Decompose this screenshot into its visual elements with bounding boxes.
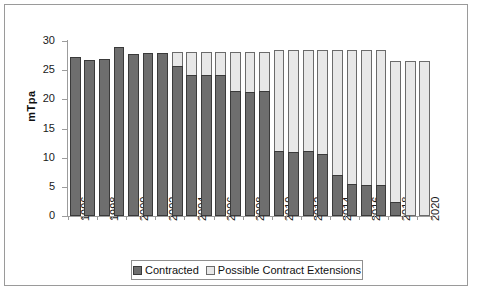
bar-segment-contracted (390, 202, 401, 216)
bar-segment-contracted (157, 53, 168, 216)
legend-item-extensions: Possible Contract Extensions (206, 265, 361, 276)
bar-segment-contracted (143, 53, 154, 216)
y-tick-label: 5 (33, 181, 55, 192)
bar-segment-extensions (245, 52, 256, 92)
x-tick-mark (257, 216, 258, 220)
bar-segment-contracted (70, 57, 81, 216)
bar-segment-extensions (419, 61, 430, 216)
x-tick-mark (272, 216, 273, 220)
bar-2003[interactable] (172, 52, 183, 217)
bar-2011[interactable] (288, 50, 299, 216)
x-tick-mark (417, 216, 418, 220)
x-tick-mark (228, 216, 229, 220)
bar-1999[interactable] (114, 47, 125, 216)
bar-2009[interactable] (259, 52, 270, 216)
bar-segment-extensions (259, 52, 270, 91)
bar-2001[interactable] (143, 53, 154, 216)
bar-segment-extensions (347, 50, 358, 184)
bar-2010[interactable] (274, 50, 285, 216)
bar-segment-contracted (259, 91, 270, 216)
bar-2005[interactable] (201, 52, 212, 216)
bar-segment-contracted (317, 154, 328, 216)
bar-2004[interactable] (186, 52, 197, 216)
legend-item-contracted: Contracted (133, 265, 199, 276)
x-tick-mark (388, 216, 389, 220)
bar-segment-contracted (361, 185, 372, 216)
bar-segment-extensions (274, 50, 285, 152)
bar-segment-contracted (128, 54, 139, 216)
bar-segment-contracted (288, 152, 299, 216)
bar-segment-extensions (186, 52, 197, 75)
x-tick-mark (184, 216, 185, 220)
bar-1997[interactable] (84, 60, 95, 216)
x-tick-mark (301, 216, 302, 220)
bar-segment-extensions (361, 50, 372, 185)
bar-segment-contracted (245, 92, 256, 216)
bar-segment-extensions (376, 50, 387, 185)
bar-segment-extensions (230, 52, 241, 91)
x-tick-mark (345, 216, 346, 220)
x-tick-mark (68, 216, 69, 220)
bar-2012[interactable] (303, 50, 314, 216)
y-tick-label: 25 (33, 64, 55, 75)
bar-2018[interactable] (390, 61, 401, 216)
bar-segment-contracted (303, 151, 314, 216)
bar-segment-extensions (390, 61, 401, 202)
x-tick-mark (83, 216, 84, 220)
bar-2017[interactable] (376, 50, 387, 216)
bar-segment-contracted (215, 75, 226, 216)
bar-segment-contracted (332, 175, 343, 216)
bar-segment-contracted (84, 60, 95, 216)
bar-2002[interactable] (157, 53, 168, 216)
legend-label-extensions: Possible Contract Extensions (218, 265, 361, 276)
x-tick-mark (97, 216, 98, 220)
x-tick-mark (374, 216, 375, 220)
bar-segment-contracted (201, 75, 212, 216)
bar-segment-extensions (172, 52, 183, 66)
bar-2006[interactable] (215, 52, 226, 216)
bar-2014[interactable] (332, 50, 343, 216)
x-tick-mark (170, 216, 171, 220)
bar-segment-contracted (186, 75, 197, 216)
y-tick-mark (62, 216, 67, 217)
x-tick-mark (155, 216, 156, 220)
bar-2020[interactable] (419, 61, 430, 216)
bar-2008[interactable] (245, 52, 256, 216)
x-tick-mark (112, 216, 113, 220)
bar-segment-extensions (201, 52, 212, 75)
y-tick-label: 30 (33, 35, 55, 46)
bar-2000[interactable] (128, 54, 139, 216)
plot-area (68, 41, 432, 216)
bar-segment-contracted (230, 91, 241, 216)
bar-2013[interactable] (317, 50, 328, 216)
y-tick-mark (62, 187, 67, 188)
bar-segment-extensions (303, 50, 314, 152)
y-tick-label: 0 (33, 210, 55, 221)
bar-1998[interactable] (99, 59, 110, 217)
x-tick-mark (126, 216, 127, 220)
bar-2007[interactable] (230, 52, 241, 216)
bar-2016[interactable] (361, 50, 372, 216)
x-tick-mark (199, 216, 200, 220)
bar-2015[interactable] (347, 50, 358, 216)
bar-segment-contracted (172, 66, 183, 217)
bar-segment-extensions (288, 50, 299, 152)
bar-segment-contracted (347, 184, 358, 216)
legend-label-contracted: Contracted (145, 265, 199, 276)
y-tick-mark (62, 99, 67, 100)
x-tick-mark (359, 216, 360, 220)
y-tick-label: 15 (33, 123, 55, 134)
bar-segment-contracted (376, 185, 387, 216)
bar-segment-extensions (317, 50, 328, 154)
x-tick-mark (286, 216, 287, 220)
y-tick-label: 20 (33, 93, 55, 104)
y-tick-mark (62, 129, 67, 130)
bar-2019[interactable] (405, 61, 416, 216)
legend-swatch-extensions-icon (206, 266, 215, 275)
y-tick-label: 10 (33, 152, 55, 163)
x-tick-mark (214, 216, 215, 220)
bar-segment-contracted (114, 47, 125, 216)
legend-swatch-contracted-icon (133, 266, 142, 275)
bar-1996[interactable] (70, 57, 81, 216)
bar-segment-contracted (99, 59, 110, 217)
